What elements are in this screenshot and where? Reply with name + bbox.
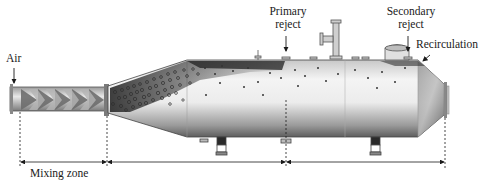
bottom-supports — [200, 137, 381, 155]
secondary-reject-label: Secondary reject — [380, 5, 442, 31]
recirculation-label: Recirculation — [416, 38, 478, 51]
recirculation-arrow — [423, 55, 430, 61]
primary-reject-label-line2: reject — [266, 18, 310, 31]
primary-reject-label-line1: Primary — [266, 5, 310, 18]
inlet-pipe — [10, 84, 109, 116]
secondary-reject-label-line2: reject — [380, 18, 442, 31]
mixing-zone-label: Mixing zone — [30, 167, 88, 180]
secondary-reject-label-line1: Secondary — [380, 5, 442, 18]
air-label: Air — [6, 52, 21, 65]
primary-reject-label: Primary reject — [266, 5, 310, 31]
